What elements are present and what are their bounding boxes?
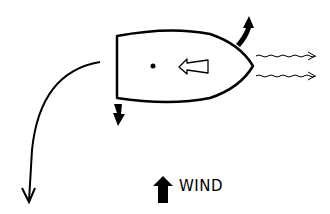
wind-label: WIND xyxy=(179,177,223,195)
diagram-canvas xyxy=(0,0,330,214)
bow-force-arrow-icon xyxy=(236,16,254,47)
pivot-point-dot xyxy=(151,64,156,69)
stern-force-arrow-icon xyxy=(113,104,125,126)
drift-path-arrow xyxy=(22,62,100,202)
wake-lines xyxy=(256,52,316,80)
wind-arrow-icon xyxy=(153,176,173,203)
